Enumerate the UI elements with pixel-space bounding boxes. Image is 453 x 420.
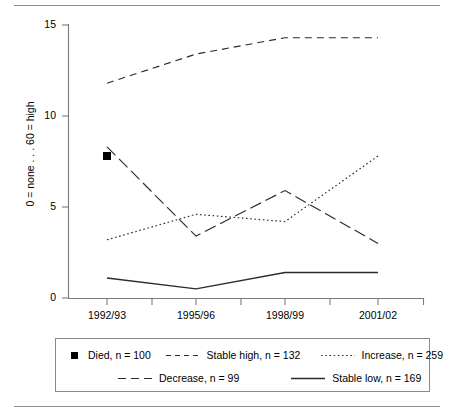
legend-row-2: Decrease, n = 99 Stable low, n = 169 — [56, 366, 453, 390]
legend-item-died: Died, n = 100 — [70, 349, 151, 361]
series-line-stable-high — [107, 38, 378, 83]
legend-row-1: Died, n = 100 Stable high, n = 132 Incre… — [56, 343, 443, 367]
x-axis-ticks — [107, 299, 424, 306]
legend-swatch-filled-square-icon — [70, 350, 82, 361]
plot-canvas — [0, 0, 453, 330]
y-axis-title: 0 = none . . . 60 = high — [24, 54, 36, 254]
series-marker-died — [103, 152, 111, 160]
x-tick-label-1995-96: 1995/96 — [161, 309, 231, 321]
legend-item-stable-high: Stable high, n = 132 — [166, 349, 301, 361]
legend-swatch-dotted-line-icon — [321, 350, 355, 361]
y-axis-ticks — [62, 25, 69, 298]
series-line-stable-low — [107, 273, 378, 289]
y-tick-label-0: 0 — [30, 292, 56, 303]
legend-label-stable-high: Stable high, n = 132 — [207, 349, 301, 361]
y-tick-label-15: 15 — [30, 19, 56, 30]
legend-label-decrease: Decrease, n = 99 — [159, 372, 239, 384]
legend-swatch-dash-dot-line-icon — [118, 373, 152, 384]
series-line-decrease — [107, 147, 378, 244]
x-tick-label-2001-02: 2001/02 — [343, 309, 413, 321]
legend-swatch-solid-line-icon — [291, 373, 325, 384]
series-line-increase — [107, 156, 378, 240]
legend-label-stable-low: Stable low, n = 169 — [332, 372, 421, 384]
legend-item-decrease: Decrease, n = 99 — [118, 372, 239, 384]
x-tick-label-1998-99: 1998/99 — [250, 309, 320, 321]
legend-label-died: Died, n = 100 — [88, 349, 151, 361]
legend-item-stable-low: Stable low, n = 169 — [291, 372, 421, 384]
legend-label-increase: Increase, n = 259 — [362, 349, 443, 361]
bottom-divider-rule — [14, 406, 440, 407]
line-chart: 15 10 5 0 0 = none . . . 60 = high 1992/… — [0, 0, 453, 330]
chart-legend: Died, n = 100 Stable high, n = 132 Incre… — [55, 338, 430, 392]
legend-swatch-dashed-line-icon — [166, 350, 200, 361]
x-tick-label-1992-93: 1992/93 — [72, 309, 142, 321]
legend-item-increase: Increase, n = 259 — [321, 349, 443, 361]
